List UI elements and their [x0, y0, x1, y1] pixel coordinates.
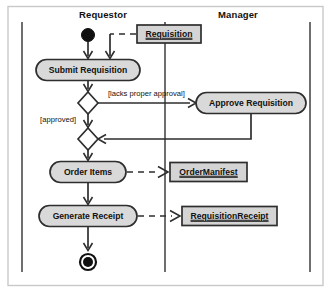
activity-diagram-svg: Requestor Manager Submit Requisition (in… [0, 0, 332, 294]
object-node-requisition-label: Requisition [146, 29, 193, 39]
action-node-generate-receipt-label: Generate Receipt [53, 211, 124, 221]
activity-diagram-canvas: Requestor Manager Submit Requisition (in… [0, 0, 332, 294]
action-node-order-items[interactable]: Order Items [50, 162, 126, 183]
action-node-generate-receipt[interactable]: Generate Receipt [39, 206, 137, 227]
final-node [80, 254, 96, 270]
action-node-submit-requisition-label: Submit Requisition [49, 65, 127, 75]
object-node-requisition-receipt-label: RequisitionReceipt [191, 211, 269, 221]
guard-label-approved: [approved] [40, 115, 76, 124]
object-node-requisition[interactable]: Requisition [137, 25, 201, 43]
object-node-requisition-receipt[interactable]: RequisitionReceipt [182, 207, 277, 226]
swimlane-label-manager: Manager [218, 9, 258, 20]
action-node-approve-requisition-label: Approve Requisition [209, 98, 293, 108]
action-node-order-items-label: Order Items [64, 167, 112, 177]
initial-node [82, 29, 95, 42]
action-node-approve-requisition[interactable]: Approve Requisition [196, 93, 306, 114]
action-node-submit-requisition[interactable]: Submit Requisition [36, 60, 140, 81]
object-node-order-manifest-label: OrderManifest [179, 167, 237, 177]
swimlane-label-requestor: Requestor [79, 9, 127, 20]
object-node-order-manifest[interactable]: OrderManifest [170, 163, 247, 182]
guard-label-lacks-proper-approval: [lacks proper approval] [108, 89, 185, 98]
